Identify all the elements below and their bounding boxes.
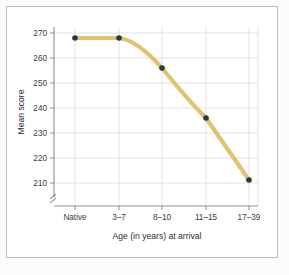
horizontal-gridlines xyxy=(54,33,258,183)
x-tick-label-11-15: 11–15 xyxy=(195,213,218,222)
axis-lines xyxy=(54,27,258,206)
y-tick-label: 210 xyxy=(33,179,47,188)
y-tick-label: 240 xyxy=(33,104,47,113)
x-tick-label-17-39: 17–39 xyxy=(238,213,261,222)
x-axis-title: Age (in years) at arrival xyxy=(113,231,202,241)
y-tick-label: 230 xyxy=(33,129,47,138)
data-point-11-15 xyxy=(203,115,209,121)
y-tick-marks xyxy=(50,33,54,183)
chart-frame: 270 260 250 240 230 220 210 Native 3–7 xyxy=(6,6,278,258)
figure-container: 270 260 250 240 230 220 210 Native 3–7 xyxy=(0,0,289,275)
y-tick-labels: 270 260 250 240 230 220 210 xyxy=(33,29,47,188)
x-tick-label-native: Native xyxy=(63,213,87,222)
axis-break-icon xyxy=(50,194,56,203)
x-tick-label-8-10: 8–10 xyxy=(153,213,172,222)
y-tick-label: 260 xyxy=(33,54,47,63)
data-point-3-7 xyxy=(116,35,122,41)
data-point-8-10 xyxy=(159,65,165,71)
y-axis-title: Mean score xyxy=(16,89,26,134)
data-point-native xyxy=(72,35,78,41)
y-tick-label: 250 xyxy=(33,79,47,88)
x-tick-label-3-7: 3–7 xyxy=(112,213,126,222)
x-tick-labels: Native 3–7 8–10 11–15 17–39 xyxy=(63,213,260,222)
data-point-17-39 xyxy=(246,177,252,183)
vertical-gridlines xyxy=(75,27,258,206)
y-tick-label: 270 xyxy=(33,29,47,38)
x-tick-marks xyxy=(75,206,249,210)
y-tick-label: 220 xyxy=(33,154,47,163)
line-chart: 270 260 250 240 230 220 210 Native 3–7 xyxy=(7,7,277,257)
